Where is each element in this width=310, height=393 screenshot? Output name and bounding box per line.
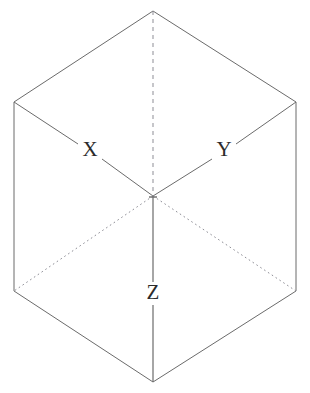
- isometric-cube-figure: X Y Z: [0, 0, 310, 393]
- hidden-lower-left-dotted-line: [14, 196, 153, 291]
- axis-label-y: Y: [212, 139, 236, 160]
- edge-bottom-left-line: [14, 291, 153, 382]
- edge-bottom-right-line: [153, 291, 296, 382]
- axis-label-z: Z: [141, 282, 165, 303]
- axis-label-x: X: [78, 139, 102, 160]
- edge-top-right-line: [153, 11, 296, 102]
- edge-top-left-line: [14, 11, 153, 102]
- axis-x-line-outer: [14, 102, 78, 144]
- axis-x-line-inner: [102, 159, 153, 196]
- axis-y-line-inner: [153, 159, 212, 196]
- cube-diagram-svg: [0, 0, 310, 393]
- axis-y-line-outer: [236, 102, 296, 144]
- hidden-lower-right-dotted-line: [153, 196, 296, 291]
